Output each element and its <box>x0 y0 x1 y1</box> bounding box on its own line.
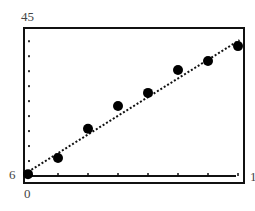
data-point <box>53 153 63 163</box>
data-point <box>203 56 213 66</box>
data-point <box>23 169 33 179</box>
y-tick-mark <box>28 100 30 102</box>
data-point <box>113 101 123 111</box>
y-tick-mark <box>28 70 30 72</box>
data-points <box>23 41 243 179</box>
data-point <box>233 41 243 51</box>
y-tick-mark <box>28 130 30 132</box>
y-tick-mark <box>28 55 30 57</box>
data-point <box>143 88 153 98</box>
y-tick-mark <box>28 160 30 162</box>
data-point <box>83 124 93 134</box>
y-tick-mark <box>28 145 30 147</box>
y-tick-mark <box>28 85 30 87</box>
y-tick-mark <box>28 115 30 117</box>
y-tick-mark <box>28 40 30 42</box>
scatter-plot <box>0 0 255 211</box>
y-axis-ticks <box>28 40 30 162</box>
data-point <box>173 65 183 75</box>
